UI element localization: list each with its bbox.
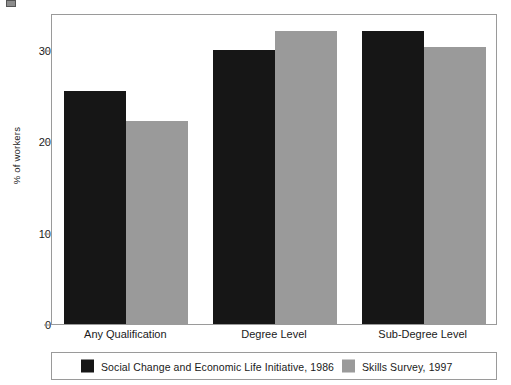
chart-legend: Social Change and Economic Life Initiati… — [51, 352, 497, 380]
bar-series-1 — [64, 91, 126, 324]
x-axis-tick-label: Degree Level — [241, 328, 306, 340]
x-axis-tick-label: Any Qualification — [84, 328, 167, 340]
bar-chart-figure: % of workers 0102030 Any QualificationDe… — [0, 0, 511, 385]
legend-label-series-2: Skills Survey, 1997 — [362, 360, 452, 372]
bar-series-2 — [275, 31, 337, 324]
bar-series-1 — [362, 31, 424, 324]
legend-item-series-1: Social Change and Economic Life Initiati… — [81, 360, 334, 373]
bar-series-1 — [213, 50, 275, 324]
legend-item-series-2: Skills Survey, 1997 — [342, 360, 452, 373]
x-axis-tick-label: Sub-Degree Level — [378, 328, 467, 340]
y-axis-title: % of workers — [11, 96, 22, 216]
legend-swatch-black-icon — [81, 360, 94, 373]
legend-label-series-1: Social Change and Economic Life Initiati… — [101, 360, 334, 372]
y-axis-tick-mark — [44, 50, 50, 51]
plot-area — [51, 14, 497, 325]
legend-swatch-gray-icon — [342, 360, 355, 373]
bar-series-2 — [424, 47, 486, 324]
y-axis-tick-mark — [44, 142, 50, 143]
y-axis-tick-mark — [44, 325, 50, 326]
y-axis-tick-mark — [44, 233, 50, 234]
bar-series-2 — [126, 121, 188, 324]
